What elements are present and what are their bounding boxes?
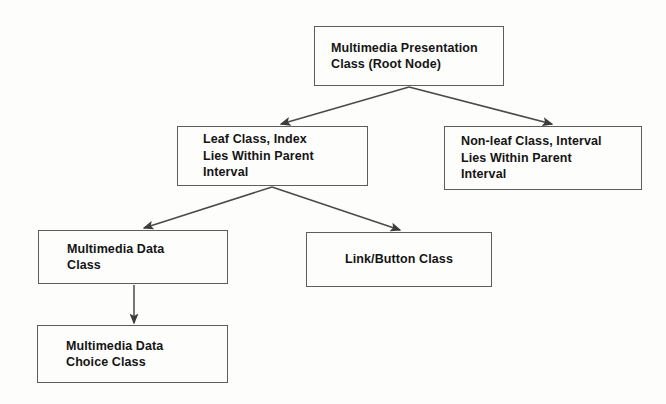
node-label-root: Multimedia Presentation Class (Root Node… (315, 40, 478, 73)
edge-root-to-leaf (281, 87, 409, 124)
node-multimedia-data-class[interactable]: Multimedia Data Class (38, 230, 228, 284)
edge-root-to-nonleaf (409, 87, 552, 124)
node-label-leaf: Leaf Class, Index Lies Within Parent Int… (178, 131, 314, 181)
node-link-button-class[interactable]: Link/Button Class (306, 232, 492, 287)
node-label-mmchoice: Multimedia Data Choice Class (38, 338, 163, 371)
node-non-leaf-class[interactable]: Non-leaf Class, Interval Lies Within Par… (444, 126, 642, 190)
edge-leaf-to-linkbutton (272, 187, 400, 230)
node-leaf-class[interactable]: Leaf Class, Index Lies Within Parent Int… (177, 126, 368, 186)
node-multimedia-presentation-class[interactable]: Multimedia Presentation Class (Root Node… (314, 26, 504, 86)
class-hierarchy-diagram: Multimedia Presentation Class (Root Node… (0, 0, 666, 404)
node-multimedia-data-choice-class[interactable]: Multimedia Data Choice Class (37, 325, 228, 383)
node-label-linkbutton: Link/Button Class (307, 251, 491, 268)
edge-leaf-to-mmdata (144, 187, 272, 228)
node-label-nonleaf: Non-leaf Class, Interval Lies Within Par… (445, 133, 602, 183)
node-label-mmdata: Multimedia Data Class (39, 241, 164, 274)
